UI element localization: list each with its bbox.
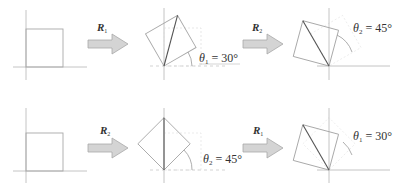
angle-label: θ2 = 45°: [203, 152, 242, 167]
angle-arc: [188, 52, 192, 66]
rotated-square-30-panel: θ1 = 30°: [146, 8, 241, 80]
arrow-label: R2: [99, 124, 110, 137]
angle-label: θ1 = 30°: [353, 129, 392, 144]
arrow-label: R2: [251, 21, 262, 34]
angle-label: θ1 = 30°: [199, 51, 238, 66]
rotation-arrow-r2: R2: [88, 124, 128, 158]
original-square-panel: [13, 10, 87, 80]
rotation-arrow-r2: R2: [243, 21, 283, 54]
angle-arc: [184, 150, 192, 170]
diagonal: [146, 15, 197, 66]
arrow-label: R1: [252, 124, 263, 137]
row-2: R2 θ2 = 45° R1: [13, 108, 392, 183]
diagonal: [293, 125, 338, 170]
square: [26, 29, 63, 67]
rotation-composition-diagram: R1 θ1 = 30° R2: [0, 0, 398, 189]
rotated-square-45-panel: θ2 = 45°: [138, 108, 242, 183]
rotated-square-75-panel: θ1 = 30°: [293, 108, 392, 183]
arrow-label: R1: [96, 21, 107, 34]
rotated-square-75-panel: θ2 = 45°: [293, 8, 392, 80]
square: [26, 133, 63, 171]
row-1: R1 θ1 = 30° R2: [13, 8, 392, 80]
original-square-panel: [13, 108, 87, 183]
rotation-arrow-r1: R1: [88, 21, 128, 54]
diagonal: [293, 21, 338, 66]
angle-arc: [337, 35, 352, 52]
angle-label: θ2 = 45°: [353, 21, 392, 36]
diagonal: [138, 118, 190, 170]
rotation-arrow-r1: R1: [243, 124, 283, 158]
